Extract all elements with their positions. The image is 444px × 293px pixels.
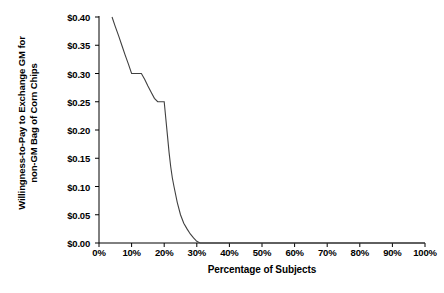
data-series-line-0 <box>112 17 425 243</box>
x-axis-tick-label: 40% <box>220 247 238 258</box>
x-axis-tick-label: 50% <box>253 247 271 258</box>
x-axis-tick-label: 60% <box>285 247 303 258</box>
x-axis-tick-label: 100% <box>413 247 437 258</box>
x-axis-tick-labels: 0%10%20%30%40%50%60%70%80%90%100% <box>0 247 444 263</box>
x-axis-tick-label: 30% <box>188 247 206 258</box>
x-axis-tick-label: 80% <box>351 247 369 258</box>
x-axis-tick-label: 70% <box>318 247 336 258</box>
chart-container: Willingness-to-Pay to Exchange GM for no… <box>0 0 444 293</box>
x-axis-tick-label: 20% <box>155 247 173 258</box>
x-axis-tick-label: 0% <box>92 247 105 258</box>
x-axis-tick-label: 10% <box>122 247 140 258</box>
x-axis-tick-label: 90% <box>383 247 401 258</box>
x-axis-title: Percentage of Subjects <box>99 264 425 275</box>
